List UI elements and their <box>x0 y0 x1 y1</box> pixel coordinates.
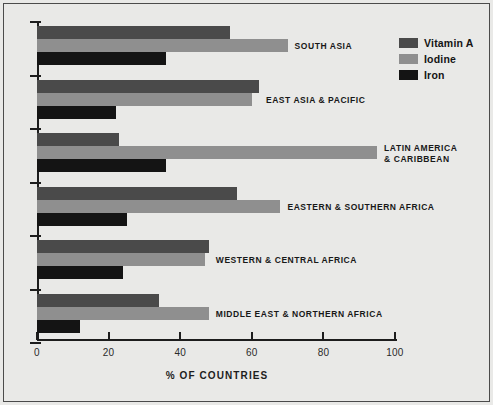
bar-iron <box>37 159 166 172</box>
bar-vitamin-a <box>37 133 119 146</box>
category-label-line: & CARIBBEAN <box>384 154 457 165</box>
bar-vitamin-a <box>37 187 237 200</box>
legend-item: Iron <box>399 68 474 82</box>
x-axis-tick-label: 100 <box>386 347 403 358</box>
chart-screenshot: 020406080100 SOUTH ASIAEAST ASIA & PACIF… <box>0 0 493 405</box>
bar-iron <box>37 52 166 65</box>
x-axis-tick <box>108 332 110 340</box>
x-axis-tick <box>251 332 253 340</box>
category-label-line: SOUTH ASIA <box>295 41 353 52</box>
category-label-line: EASTERN & SOUTHERN AFRICA <box>287 202 434 213</box>
y-axis-tick <box>30 235 41 237</box>
category-label: MIDDLE EAST & NORTHERN AFRICA <box>216 309 383 320</box>
bar-vitamin-a <box>37 80 259 93</box>
legend-swatch-vitamin-a <box>399 38 418 48</box>
x-axis-title: % OF COUNTRIES <box>37 370 397 381</box>
category-label: WESTERN & CENTRAL AFRICA <box>216 255 357 266</box>
category-label: SOUTH ASIA <box>295 41 353 52</box>
x-axis-tick <box>322 332 324 340</box>
x-axis-tick <box>36 332 38 340</box>
bar-vitamin-a <box>37 294 159 307</box>
bar-iodine <box>37 39 288 52</box>
y-axis-tick <box>30 75 41 77</box>
category-label: LATIN AMERICA& CARIBBEAN <box>384 143 457 164</box>
x-axis-line <box>37 339 397 341</box>
bar-iron <box>37 213 127 226</box>
x-axis-tick <box>394 332 396 340</box>
x-axis-tick-label: 20 <box>103 347 115 358</box>
bar-iodine <box>37 253 205 266</box>
category-label-line: MIDDLE EAST & NORTHERN AFRICA <box>216 309 383 320</box>
bar-iodine <box>37 146 377 159</box>
x-axis-tick-label: 40 <box>174 347 186 358</box>
bar-iron <box>37 266 123 279</box>
category-label-line: EAST ASIA & PACIFIC <box>266 95 365 106</box>
category-label-line: LATIN AMERICA <box>384 143 457 154</box>
y-axis-tick <box>30 182 41 184</box>
legend-item: Vitamin A <box>399 36 474 50</box>
category-label-line: WESTERN & CENTRAL AFRICA <box>216 255 357 266</box>
legend-swatch-iron <box>399 70 418 80</box>
category-label: EASTERN & SOUTHERN AFRICA <box>287 202 434 213</box>
bar-iron <box>37 320 80 333</box>
bar-iodine <box>37 307 209 320</box>
x-axis-tick <box>179 332 181 340</box>
y-axis-tick <box>30 342 41 344</box>
legend-label: Iron <box>424 69 445 81</box>
x-axis-tick-label: 80 <box>318 347 330 358</box>
legend-label: Iodine <box>424 53 456 65</box>
x-axis-tick-label: 60 <box>246 347 258 358</box>
legend-swatch-iodine <box>399 54 418 64</box>
bar-iron <box>37 106 116 119</box>
x-axis-tick-label: 0 <box>34 347 40 358</box>
legend-item: Iodine <box>399 52 474 66</box>
category-label: EAST ASIA & PACIFIC <box>266 95 365 106</box>
y-axis-tick <box>30 128 41 130</box>
bar-vitamin-a <box>37 26 230 39</box>
y-axis-tick <box>30 289 41 291</box>
legend-label: Vitamin A <box>424 37 474 49</box>
bar-iodine <box>37 200 280 213</box>
y-axis-tick <box>30 21 41 23</box>
bar-vitamin-a <box>37 240 209 253</box>
bar-iodine <box>37 93 252 106</box>
chart-legend: Vitamin AIodineIron <box>399 36 474 84</box>
